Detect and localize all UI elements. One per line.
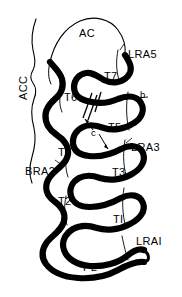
label-lra3: LRA3 — [131, 142, 160, 153]
label-t7: T7 — [104, 71, 118, 82]
label-bra2: BRA2 — [25, 166, 55, 177]
ac-outline-contour — [50, 18, 125, 62]
label-t2: T2 — [58, 196, 72, 207]
serpentine-band — [63, 55, 144, 266]
figure-canvas: AC ACC LRA5 T7 T6 b T5 c LRA3 T4 BRA2 T3… — [0, 0, 182, 297]
label-lrai: LRAI — [136, 236, 162, 247]
arrow-c-lower — [99, 134, 108, 149]
label-lra5: LRA5 — [128, 49, 157, 60]
label-t6: T6 — [64, 92, 78, 103]
label-t1: TI — [113, 214, 124, 225]
label-ac: AC — [79, 28, 95, 39]
label-b: b — [140, 90, 146, 100]
label-t5: T5 — [108, 122, 122, 133]
label-acc: ACC — [18, 76, 29, 100]
label-t3: T3 — [112, 167, 126, 178]
label-c: c — [91, 128, 96, 138]
acc-outline-contour — [30, 19, 36, 183]
label-pl: PL — [83, 262, 97, 273]
label-t4: T4 — [58, 147, 72, 158]
leader-line-lra5 — [120, 44, 124, 50]
